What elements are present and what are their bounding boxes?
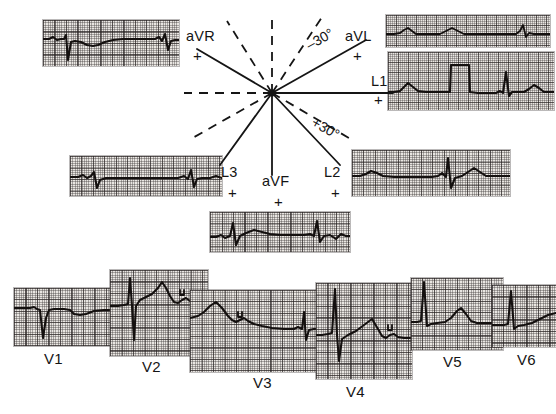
axis-label-avl: aVL — [345, 29, 371, 44]
axis-dash-l2-negative — [227, 21, 272, 93]
u-wave-marker-v2 — [180, 290, 184, 295]
lead-label-v4: V4 — [346, 383, 365, 400]
axis-polarity-l1: + — [374, 92, 383, 107]
axis-polarity-avl: + — [353, 48, 362, 63]
ecg-strip-v5 — [411, 278, 503, 350]
hexaxial-center-point — [268, 89, 275, 96]
axis-label-l3: L3 — [221, 165, 238, 180]
axis-dash-avl-negative — [189, 93, 272, 140]
ecg-strip-v3 — [190, 290, 326, 372]
axis-label-avr: aVR — [186, 29, 215, 44]
ecg-hexaxial-figure: aVR + aVL + L1 + L2 + aVF + L3 + –30° +3… — [0, 0, 556, 414]
lead-label-v1: V1 — [44, 350, 63, 367]
ecg-trace-v4 — [316, 283, 412, 379]
ecg-trace-l1 — [388, 52, 554, 110]
ecg-strip-v1 — [14, 288, 120, 346]
lead-label-v2: V2 — [142, 358, 161, 375]
axis-polarity-avr: + — [193, 48, 202, 63]
axis-label-avf: aVF — [262, 174, 289, 189]
lead-label-v5: V5 — [443, 353, 462, 370]
ecg-trace-v6 — [492, 285, 556, 347]
axis-line-l3 — [220, 93, 272, 165]
axis-polarity-l2: + — [331, 185, 340, 200]
axis-polarity-l3: + — [228, 185, 237, 200]
u-wave-marker-v3 — [238, 312, 242, 317]
ecg-trace-avf — [210, 212, 350, 252]
lead-label-v6: V6 — [517, 351, 536, 368]
ecg-trace-avl — [386, 15, 550, 47]
u-wave-marker-v4 — [388, 325, 392, 330]
ecg-strip-v4 — [316, 283, 412, 379]
axis-label-l2: L2 — [324, 165, 341, 180]
ecg-trace-v5 — [411, 278, 503, 350]
ecg-trace-v3 — [190, 290, 326, 372]
ecg-strip-avf — [210, 212, 350, 252]
axis-line-avr — [197, 49, 272, 93]
ecg-trace-v1 — [14, 288, 120, 346]
ecg-strip-v6 — [492, 285, 556, 347]
ecg-strip-avl — [386, 15, 550, 47]
axis-polarity-avf: + — [274, 194, 283, 209]
axis-dash-l3-negative — [272, 17, 322, 93]
axis-label-l1: L1 — [371, 74, 388, 89]
lead-label-v3: V3 — [253, 374, 272, 391]
ecg-strip-l1 — [388, 52, 554, 110]
